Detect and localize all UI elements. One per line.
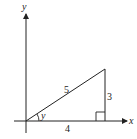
x-axis-label: x [128, 115, 134, 126]
y-axis-label: y [21, 1, 27, 12]
hypotenuse [26, 69, 105, 121]
right-angle-marker [96, 112, 105, 121]
vertical-leg-label: 3 [107, 91, 112, 102]
angle-arc [37, 114, 39, 121]
right-triangle-diagram: y x 5 3 4 y [0, 0, 137, 139]
hypotenuse-label: 5 [64, 84, 69, 95]
horizontal-leg-label: 4 [65, 123, 70, 134]
angle-label: y [40, 110, 46, 121]
